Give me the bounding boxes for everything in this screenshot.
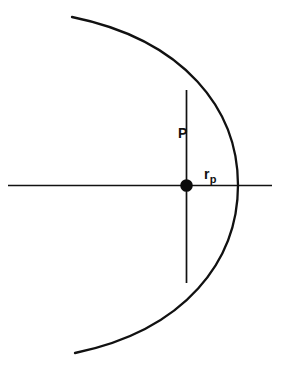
label-p-subscript: p: [210, 173, 217, 185]
label-r-base: r: [204, 166, 209, 182]
diagram-svg: [0, 0, 284, 371]
center-point-dot: [180, 179, 193, 192]
figure-canvas: P rp: [0, 0, 284, 371]
label-p: P: [178, 126, 187, 140]
label-r-subscript-p: rp: [204, 167, 216, 185]
